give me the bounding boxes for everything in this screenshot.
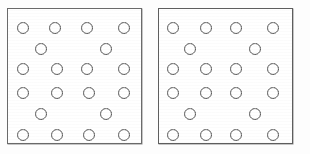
- circle-marker: [118, 87, 130, 99]
- circle-marker: [83, 129, 95, 141]
- circle-marker: [51, 63, 63, 75]
- circle-marker: [249, 43, 261, 55]
- circle-marker: [267, 63, 279, 75]
- circle-marker: [35, 43, 47, 55]
- circle-marker: [81, 63, 93, 75]
- circle-marker: [167, 22, 179, 34]
- circle-marker: [267, 87, 279, 99]
- circle-marker: [200, 63, 212, 75]
- circle-marker: [35, 108, 47, 120]
- circle-marker: [118, 129, 130, 141]
- circle-marker: [167, 129, 179, 141]
- circle-marker: [118, 63, 130, 75]
- circle-marker: [267, 22, 279, 34]
- circle-marker: [17, 22, 29, 34]
- circle-marker: [51, 129, 63, 141]
- circle-marker: [17, 63, 29, 75]
- circle-marker: [118, 22, 130, 34]
- panel-left-circle-field: [8, 9, 141, 143]
- circle-marker: [230, 129, 242, 141]
- circle-marker: [249, 108, 261, 120]
- circle-marker: [230, 87, 242, 99]
- circle-marker: [17, 87, 29, 99]
- panel-right-circle-field: [159, 9, 292, 143]
- circle-marker: [51, 87, 63, 99]
- circle-marker: [100, 43, 112, 55]
- circle-marker: [167, 87, 179, 99]
- circle-marker: [230, 63, 242, 75]
- circle-marker: [184, 108, 196, 120]
- circle-marker: [200, 129, 212, 141]
- circle-marker: [200, 22, 212, 34]
- circle-marker: [100, 108, 112, 120]
- figure-root: [0, 0, 310, 154]
- panel-right: [158, 8, 293, 144]
- circle-marker: [81, 22, 93, 34]
- circle-marker: [230, 22, 242, 34]
- circle-marker: [49, 22, 61, 34]
- circle-marker: [167, 63, 179, 75]
- circle-marker: [267, 129, 279, 141]
- circle-marker: [184, 43, 196, 55]
- circle-marker: [17, 129, 29, 141]
- panel-left: [7, 8, 142, 144]
- circle-marker: [200, 87, 212, 99]
- circle-marker: [83, 87, 95, 99]
